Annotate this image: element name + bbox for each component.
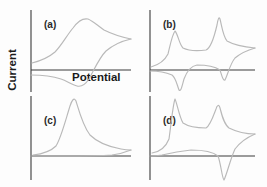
panel-b-label: (b) [163,19,176,30]
x-axis-label: Potential [72,71,121,83]
panel-c-label: (c) [44,115,56,126]
panel-d-label: (d) [163,115,176,126]
panel-a-label: (a) [44,19,56,30]
figure-canvas: Current (a) Potential (b) (c) [0,0,267,187]
figure-background [0,0,267,187]
y-axis-label: Current [6,49,18,91]
cyclic-voltammetry-figure: Current (a) Potential (b) (c) [0,0,267,187]
